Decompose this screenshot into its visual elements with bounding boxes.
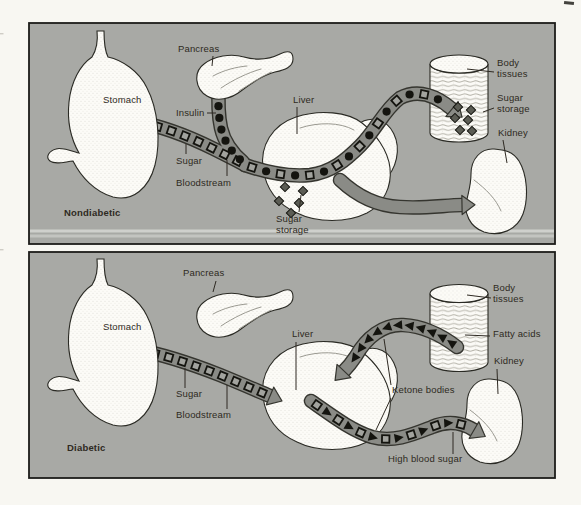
vessel-symbol-circle	[345, 152, 353, 160]
vessel-symbol-circle	[382, 107, 390, 115]
label-bloodstream-d: Bloodstream	[176, 410, 231, 421]
vessel-symbol-square	[167, 126, 176, 135]
vessel-symbol-square	[164, 353, 173, 362]
scan-tick	[0, 33, 4, 34]
label-insulin: Insulin	[176, 108, 205, 119]
label-sugar-nd: Sugar	[176, 156, 202, 167]
vessel-symbol-square	[205, 366, 215, 376]
label-kidney-nd: Kidney	[498, 128, 528, 139]
vessel-symbol-square	[247, 163, 256, 172]
scan-speck	[564, 1, 574, 5]
vessel-symbol-square	[194, 137, 204, 147]
label-liver-sugar-storage: Sugar storage	[276, 214, 320, 235]
vessel-symbol-square	[257, 388, 267, 398]
label-sugar-d: Sugar	[176, 389, 202, 400]
vessel-symbol-circle	[221, 137, 229, 145]
vessel-symbol-square	[420, 90, 429, 99]
vessel-symbol-square	[382, 435, 390, 443]
label-ketone-bodies: Ketone bodies	[392, 385, 455, 396]
vessel-symbol-square	[407, 430, 416, 439]
label-liver-nd: Liver	[293, 95, 314, 106]
caption-diabetic: Diabetic	[67, 443, 106, 454]
vessel-symbol-square	[356, 428, 366, 438]
label-stomach-nd: Stomach	[103, 95, 142, 106]
label-sugar-storage-nd: Sugar storage	[497, 93, 541, 114]
label-bloodstream-nd: Bloodstream	[176, 178, 231, 189]
vessel-symbol-circle	[262, 167, 270, 175]
vessel-symbol-square	[191, 361, 200, 370]
vessel-symbol-circle	[434, 95, 442, 103]
vessel-symbol-square	[306, 171, 314, 179]
vessel-symbol-circle	[217, 125, 225, 133]
diagram: Pancreas Stomach Insulin Sugar Bloodstre…	[0, 0, 581, 505]
vessel-symbol-circle	[215, 114, 223, 122]
vessel-symbol-circle	[405, 90, 413, 98]
vessel-symbol-circle	[236, 155, 244, 163]
vessel-symbol-square	[276, 170, 284, 178]
label-body-tissues-d: Body tissues	[493, 283, 535, 304]
kidney	[466, 149, 527, 234]
label-pancreas-nd: Pancreas	[178, 44, 219, 55]
vessel-symbol-circle	[291, 171, 299, 179]
vessel-symbol-circle	[320, 167, 328, 175]
label-body-tissues-nd: Body tissues	[497, 58, 539, 79]
vessel-symbol-circle	[365, 131, 373, 139]
label-high-blood-sugar: High blood sugar	[388, 454, 462, 465]
vessel-symbol-square	[178, 357, 187, 366]
caption-nondiabetic: Nondiabetic	[64, 208, 121, 219]
vessel-symbol-circle	[228, 147, 236, 155]
diagram-canvas	[0, 0, 581, 505]
panel-diabetic	[29, 252, 555, 478]
vessel-symbol-circle	[214, 102, 222, 110]
label-liver-d: Liver	[292, 329, 313, 340]
label-pancreas-d: Pancreas	[183, 268, 224, 279]
label-kidney-d: Kidney	[494, 356, 524, 367]
label-fatty-acids: Fatty acids	[493, 329, 541, 340]
vessel-symbol-square	[180, 131, 190, 141]
vessel-symbol-square	[218, 371, 228, 381]
vessel-symbol-square	[231, 377, 241, 387]
vessel-symbol-square	[431, 421, 440, 430]
scan-tick	[0, 249, 4, 250]
vessel-symbol-square	[244, 382, 254, 392]
vessel-symbol-square	[457, 420, 466, 429]
label-stomach-d: Stomach	[103, 322, 142, 333]
